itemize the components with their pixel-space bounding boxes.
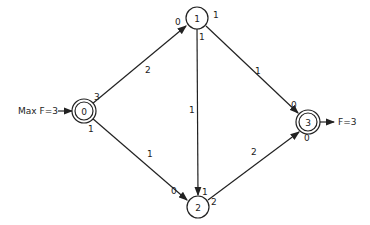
edge-1-3-end-label: 0 [291, 100, 297, 110]
sink-label: F=3 [338, 117, 356, 127]
source-label: Max F=3 [18, 106, 58, 116]
edge-1-2 [197, 29, 198, 195]
edge-0-2-start-label: 1 [88, 124, 94, 134]
edge-1-2-start-label: 1 [199, 32, 205, 42]
node-0: 0 [72, 99, 96, 123]
edge-2-3-capacity: 2 [251, 147, 257, 157]
edge-1-2-end-label: 1 [202, 187, 208, 197]
edge-0-1 [92, 26, 186, 104]
svg-text:0: 0 [81, 107, 87, 117]
svg-text:1: 1 [194, 14, 200, 24]
edge-0-1-start-label: 3 [94, 92, 100, 102]
svg-text:2: 2 [195, 203, 201, 213]
edge-1-2-capacity: 1 [189, 105, 195, 115]
node-1: 1 [186, 7, 208, 29]
edge-0-1-capacity: 2 [145, 65, 151, 75]
edge-1-3 [206, 26, 298, 113]
edge-0-2-capacity: 1 [147, 149, 153, 159]
flow-network-diagram: 0 1 2 3 Max F=3 F=3 3 2 0 1 1 0 1 1 1 1 … [0, 0, 370, 225]
edge-1-3-capacity: 1 [255, 66, 261, 76]
edge-2-3-end-label: 0 [304, 133, 310, 143]
edge-0-1-end-label: 0 [175, 17, 181, 27]
node-3: 3 [296, 110, 320, 134]
edge-2-3-start-label: 2 [211, 197, 217, 207]
edge-0-2-end-label: 0 [171, 186, 177, 196]
svg-text:3: 3 [305, 118, 311, 128]
edge-2-3 [208, 132, 299, 200]
edge-1-3-start-label: 1 [213, 10, 219, 20]
node-2: 2 [187, 196, 209, 218]
